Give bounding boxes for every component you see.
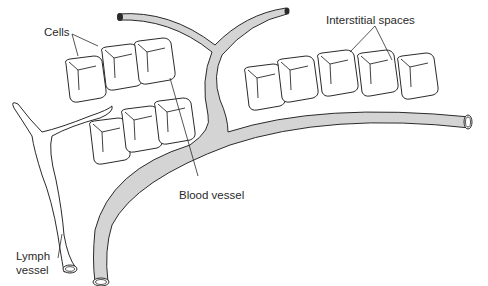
cell-group-right: [245, 50, 439, 110]
tissue-diagram: Cells Interstitial spaces Blood vessel L…: [0, 0, 488, 286]
cell-group-upper-left: [66, 38, 176, 102]
vessel-opening-icon: [117, 13, 123, 21]
lymph-vessel-label-line2: vessel: [16, 264, 49, 277]
interstitial-spaces-label: Interstitial spaces: [326, 14, 415, 27]
diagram-canvas: [0, 0, 488, 286]
cells-label: Cells: [44, 26, 70, 39]
lymph-vessel-label-line1: Lymph: [16, 250, 50, 263]
blood-vessel-label: Blood vessel: [179, 189, 244, 202]
